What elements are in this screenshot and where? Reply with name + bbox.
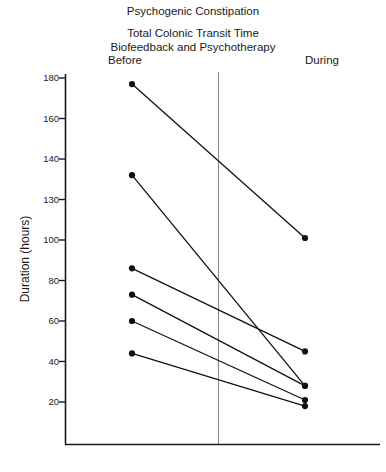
plot-area xyxy=(0,0,386,472)
figure-container: Psychogenic Constipation Total Colonic T… xyxy=(0,0,386,472)
data-point-marker xyxy=(129,265,135,271)
data-point-marker xyxy=(302,397,308,403)
data-point-marker xyxy=(129,292,135,298)
data-point-marker xyxy=(129,81,135,87)
data-point-marker xyxy=(302,403,308,409)
data-point-marker xyxy=(129,318,135,324)
data-point-marker xyxy=(302,383,308,389)
data-point-marker xyxy=(302,235,308,241)
data-point-marker xyxy=(129,172,135,178)
axis-lines xyxy=(65,74,380,445)
data-point-marker xyxy=(129,350,135,356)
data-point-marker xyxy=(302,348,308,354)
